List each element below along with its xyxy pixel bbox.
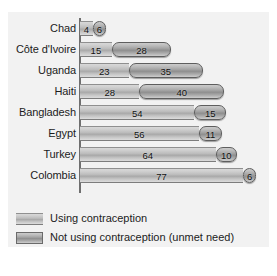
bar-value-label: 54 — [132, 108, 143, 119]
legend-label-using: Using contraception — [50, 209, 147, 228]
bar-value-label: 28 — [104, 87, 115, 98]
legend-item-unmet: Not using contraception (unmet need) — [16, 227, 266, 246]
category-label: Bangladesh — [8, 102, 76, 123]
bar-value-label: 64 — [143, 150, 154, 161]
bar-value-label: 35 — [161, 66, 172, 77]
plot-area: Chad46Côte d'Ivoire1528Uganda2335Haiti28… — [8, 18, 269, 193]
category-label: Egypt — [8, 123, 76, 144]
bar-value-label: 6 — [97, 24, 102, 35]
category-label: Turkey — [8, 144, 76, 165]
bar-segment-unmet: 15 — [194, 105, 226, 120]
bar-segment-using: 4 — [80, 21, 93, 36]
bar-segment-using: 64 — [80, 147, 216, 162]
bar-row: Turkey6410 — [8, 144, 269, 165]
category-label: Haiti — [8, 81, 76, 102]
category-label: Uganda — [8, 60, 76, 81]
bar-row: Côte d'Ivoire1528 — [8, 39, 269, 60]
bar-segment-using: 15 — [80, 42, 112, 57]
stacked-bar: 776 — [80, 168, 256, 183]
stacked-bar: 46 — [80, 21, 106, 36]
category-label: Côte d'Ivoire — [8, 39, 76, 60]
legend-item-using: Using contraception — [16, 208, 266, 227]
category-label: Colombia — [8, 165, 76, 186]
legend-swatch-using-icon — [16, 213, 43, 225]
bar-segment-using: 23 — [80, 63, 129, 78]
bar-value-label: 11 — [205, 129, 215, 140]
bar-row: Chad46 — [8, 18, 269, 39]
stacked-bar: 6410 — [80, 147, 237, 162]
stacked-bar: 5415 — [80, 105, 226, 120]
bar-segment-using: 54 — [80, 105, 194, 120]
bar-segment-using: 28 — [80, 84, 139, 99]
chart-legend: Using contraception Not using contracept… — [16, 208, 266, 246]
bar-row: Haiti2840 — [8, 81, 269, 102]
bar-value-label: 6 — [247, 171, 252, 182]
bar-row: Egypt5611 — [8, 123, 269, 144]
bar-value-label: 10 — [221, 150, 232, 161]
bar-value-label: 15 — [91, 45, 102, 56]
bar-segment-unmet: 6 — [93, 21, 106, 36]
bar-value-label: 23 — [99, 66, 110, 77]
bar-value-label: 28 — [136, 45, 147, 56]
stacked-bar: 1528 — [80, 42, 171, 57]
stacked-bar: 2840 — [80, 84, 224, 99]
bar-segment-using: 56 — [80, 126, 199, 141]
figure-panel: Chad46Côte d'Ivoire1528Uganda2335Haiti28… — [8, 12, 269, 247]
legend-swatch-unmet-icon — [16, 232, 43, 244]
category-label: Chad — [8, 18, 76, 39]
bar-row: Colombia776 — [8, 165, 269, 186]
bar-value-label: 15 — [205, 108, 216, 119]
bar-value-label: 56 — [134, 129, 145, 140]
bar-segment-using: 77 — [80, 168, 243, 183]
bar-value-label: 40 — [176, 87, 187, 98]
legend-label-unmet: Not using contraception (unmet need) — [50, 228, 234, 247]
bar-row: Bangladesh5415 — [8, 102, 269, 123]
bar-segment-unmet: 35 — [129, 63, 203, 78]
bar-segment-unmet: 6 — [243, 168, 256, 183]
bar-value-label: 4 — [84, 24, 89, 35]
bar-row: Uganda2335 — [8, 60, 269, 81]
bar-value-label: 77 — [156, 171, 167, 182]
bar-segment-unmet: 10 — [216, 147, 237, 162]
bar-segment-unmet: 11 — [199, 126, 222, 141]
bar-segment-unmet: 40 — [139, 84, 224, 99]
bar-segment-unmet: 28 — [112, 42, 171, 57]
stacked-bar: 5611 — [80, 126, 222, 141]
stacked-bar: 2335 — [80, 63, 203, 78]
